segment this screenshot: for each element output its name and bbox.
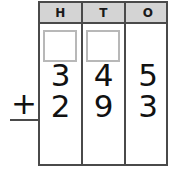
answer-cell-hundreds[interactable] bbox=[40, 123, 81, 167]
addend2-digit-ones: 3 bbox=[126, 91, 170, 122]
addend1-digit-tens: 4 bbox=[83, 60, 124, 91]
place-value-header-row: H T O bbox=[40, 3, 166, 24]
place-value-grid: H T O 3 4 5 2 9 3 bbox=[38, 1, 168, 166]
column-addition-worksheet: + H T O 3 4 5 2 9 3 bbox=[0, 0, 174, 169]
column-header-tens: T bbox=[83, 3, 124, 24]
addend2-digit-hundreds: 2 bbox=[40, 91, 81, 122]
column-header-hundreds: H bbox=[40, 3, 81, 24]
column-header-ones: O bbox=[126, 3, 170, 24]
answer-cell-tens[interactable] bbox=[83, 123, 124, 167]
addend2-digit-tens: 9 bbox=[83, 91, 124, 122]
answer-cell-ones[interactable] bbox=[126, 123, 170, 167]
addend1-digit-ones: 5 bbox=[126, 60, 170, 91]
addend1-digit-hundreds: 3 bbox=[40, 60, 81, 91]
addition-operator: + bbox=[10, 88, 38, 119]
